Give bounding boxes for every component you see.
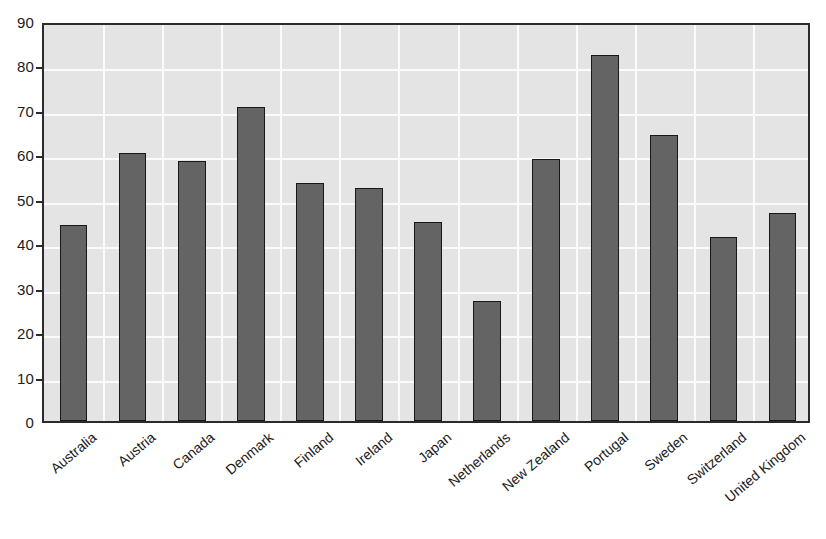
bar — [710, 237, 738, 421]
bar-chart: 0102030405060708090 AustraliaAustriaCana… — [0, 0, 826, 539]
chart-title-strip — [0, 0, 826, 12]
y-axis-tick-label: 60 — [0, 148, 34, 163]
y-axis-tick-label: 50 — [0, 193, 34, 208]
y-axis-tick-label: 90 — [0, 15, 34, 30]
bar — [591, 55, 619, 421]
y-axis-tick-label: 40 — [0, 237, 34, 252]
y-axis-tick-label: 0 — [0, 415, 34, 430]
bar — [60, 225, 88, 421]
bar — [178, 161, 206, 421]
bar — [296, 183, 324, 421]
bar — [532, 159, 560, 421]
y-axis-tick-label: 30 — [0, 282, 34, 297]
y-axis-tick-label: 70 — [0, 104, 34, 119]
bar — [473, 301, 501, 421]
y-axis-tick-labels: 0102030405060708090 — [0, 0, 34, 539]
bars-layer — [44, 25, 808, 421]
bar — [650, 135, 678, 421]
x-axis-category-labels: AustraliaAustriaCanadaDenmarkFinlandIrel… — [42, 423, 810, 539]
bar — [414, 222, 442, 421]
bar — [237, 107, 265, 421]
plot-area — [42, 23, 810, 423]
y-axis-tick-label: 20 — [0, 326, 34, 341]
y-axis-tick-label: 80 — [0, 59, 34, 74]
bar — [119, 153, 147, 421]
y-axis-tick-label: 10 — [0, 371, 34, 386]
bar — [355, 188, 383, 421]
